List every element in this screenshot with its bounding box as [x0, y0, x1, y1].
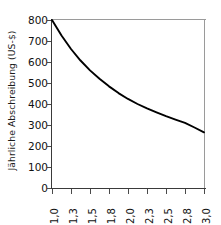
- x-tick-mark: [147, 189, 148, 194]
- plot-frame-right: [204, 19, 205, 189]
- x-tick-mark: [52, 189, 53, 194]
- y-tick-label: 300: [22, 120, 48, 131]
- y-axis-title: Jährliche Abschreibung (US-$): [0, 0, 22, 200]
- x-tick-label: 1,0: [46, 196, 58, 225]
- x-tick-mark: [166, 189, 167, 194]
- x-tick-mark: [185, 189, 186, 194]
- x-tick-label: 1,5: [84, 196, 96, 225]
- y-axis-title-text: Jährliche Abschreibung (US-$): [6, 30, 17, 170]
- chart-figure: Jährliche Abschreibung (US-$) 800 700 60…: [0, 0, 221, 225]
- x-tick-mark: [128, 189, 129, 194]
- y-tick-label: 800: [22, 15, 48, 26]
- x-tick-mark: [204, 189, 205, 194]
- plot-frame-top: [52, 19, 206, 20]
- x-tick-label: 1,3: [65, 196, 77, 225]
- x-tick-label: 2,0: [122, 196, 134, 225]
- x-tick-label: 1,8: [103, 196, 115, 225]
- x-tick-label: 2,3: [141, 196, 153, 225]
- x-tick-label: 2,8: [179, 196, 191, 225]
- x-tick-mark: [71, 189, 72, 194]
- y-axis-tick-labels: 800 700 600 500 400 300 200 100 0: [20, 0, 48, 225]
- x-tick-mark: [109, 189, 110, 194]
- y-tick-label: 600: [22, 57, 48, 68]
- y-axis-line: [51, 19, 52, 189]
- x-tick-label: 2,5: [160, 196, 172, 225]
- x-tick-label: 3,0: [198, 196, 210, 225]
- y-tick-label: 200: [22, 141, 48, 152]
- y-tick-label: 400: [22, 99, 48, 110]
- y-tick-label: 500: [22, 78, 48, 89]
- x-tick-mark: [90, 189, 91, 194]
- y-tick-label: 0: [22, 183, 48, 194]
- y-tick-label: 100: [22, 162, 48, 173]
- y-tick-label: 700: [22, 36, 48, 47]
